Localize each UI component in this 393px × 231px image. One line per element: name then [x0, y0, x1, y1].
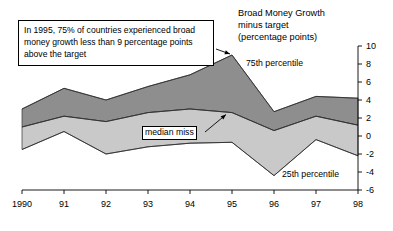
series-label-median-miss: median miss	[142, 126, 197, 140]
x-axis-tick-label: 97	[311, 199, 321, 209]
series-label-25th-percentile: 25th percentile	[282, 169, 339, 180]
y-axis: 1086420-2-4-6	[358, 41, 376, 195]
x-axis-tick-label: 93	[143, 199, 153, 209]
x-axis-tick-label: 94	[185, 199, 195, 209]
x-axis-tick-label: 96	[269, 199, 279, 209]
y-axis-tick-label: 4	[366, 95, 371, 105]
y-axis-tick-label: 2	[366, 113, 371, 123]
y-axis-tick-label: 8	[366, 59, 371, 69]
y-axis-tick-label: -4	[366, 167, 374, 177]
x-axis-tick-label: 92	[101, 199, 111, 209]
y-axis-tick-label: 6	[366, 77, 371, 87]
series-label-75th-percentile: 75th percentile	[246, 58, 303, 69]
y-axis-tick-label: -2	[366, 149, 374, 159]
y-axis-tick-label: 10	[366, 41, 376, 51]
x-axis: 19909192939495969798	[12, 190, 363, 209]
x-axis-tick-label: 98	[353, 199, 363, 209]
y-axis-tick-label: 0	[366, 131, 371, 141]
callout-arrow-1995	[216, 49, 230, 54]
chart-figure: 1086420-2-4-6 19909192939495969798 Broad…	[0, 0, 393, 231]
chart-title: Broad Money Growth minus target (percent…	[238, 8, 325, 43]
x-axis-tick-label: 95	[227, 199, 237, 209]
x-axis-tick-label: 91	[59, 199, 69, 209]
annotation-callout-1995: In 1995, 75% of countries experienced br…	[18, 20, 214, 66]
x-axis-tick-label: 1990	[12, 199, 32, 209]
y-axis-tick-label: -6	[366, 185, 374, 195]
